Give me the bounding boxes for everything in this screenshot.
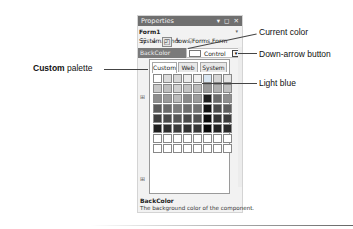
color-cell[interactable]: [213, 104, 222, 113]
color-cell[interactable]: [153, 144, 162, 153]
color-cell[interactable]: [213, 94, 222, 103]
window-controls[interactable]: ▾ ◻ ✕: [217, 16, 240, 26]
chevron-down-icon[interactable]: ▾: [235, 27, 238, 36]
color-cell[interactable]: [153, 94, 162, 103]
color-cell[interactable]: [163, 74, 172, 83]
expand-icon[interactable]: ⊞: [140, 93, 145, 100]
color-cell[interactable]: [183, 114, 192, 123]
color-cell[interactable]: [203, 124, 212, 133]
property-name: BackColor: [138, 48, 186, 58]
callout-custom-palette: Custom palette: [33, 63, 93, 73]
color-cell[interactable]: [213, 74, 222, 83]
properties-icon[interactable]: ◰: [162, 37, 172, 47]
current-color-swatch: [189, 50, 201, 57]
color-cell[interactable]: [223, 144, 232, 153]
color-cell[interactable]: [183, 134, 192, 143]
color-cell[interactable]: [153, 114, 162, 123]
color-cell[interactable]: [153, 134, 162, 143]
color-cell[interactable]: [173, 144, 182, 153]
color-cell[interactable]: [203, 84, 212, 93]
color-cell[interactable]: [153, 74, 162, 83]
color-cell[interactable]: [203, 144, 212, 153]
custom-color-grid: [153, 74, 232, 153]
color-cell[interactable]: [213, 134, 222, 143]
properties-window: Properties ▾ ◻ ✕ Form1 System.Windows.Fo…: [137, 15, 243, 213]
color-cell[interactable]: [173, 104, 182, 113]
description-title: BackColor: [140, 197, 174, 204]
color-cell[interactable]: [163, 84, 172, 93]
color-cell[interactable]: [163, 114, 172, 123]
color-cell[interactable]: [163, 124, 172, 133]
title-bar: Properties ▾ ◻ ✕: [138, 16, 242, 26]
expand-icon[interactable]: ⊞: [140, 175, 145, 182]
color-cell[interactable]: [193, 124, 202, 133]
color-picker-popup: Custom Web System: [149, 59, 230, 194]
object-name: Form1: [139, 28, 160, 35]
color-cell[interactable]: [213, 144, 222, 153]
description-text: The background color of the component.: [140, 205, 254, 211]
color-cell[interactable]: [173, 74, 182, 83]
color-cell[interactable]: [183, 84, 192, 93]
color-cell[interactable]: [193, 74, 202, 83]
color-cell[interactable]: [193, 134, 202, 143]
callout-custom-bold: Custom: [33, 63, 65, 73]
color-cell[interactable]: [173, 84, 182, 93]
color-cell[interactable]: [193, 114, 202, 123]
events-icon[interactable]: ϟ: [173, 37, 182, 46]
color-cell[interactable]: [203, 134, 212, 143]
color-cell[interactable]: [193, 104, 202, 113]
color-cell[interactable]: [173, 114, 182, 123]
alphabetical-icon[interactable]: ↓: [150, 37, 159, 46]
tab-system[interactable]: System: [200, 62, 227, 72]
color-cell[interactable]: [163, 104, 172, 113]
categorized-icon[interactable]: ☷: [139, 37, 148, 46]
color-cell[interactable]: [193, 84, 202, 93]
color-cell[interactable]: [223, 84, 232, 93]
color-cell[interactable]: [223, 94, 232, 103]
color-cell[interactable]: [153, 84, 162, 93]
color-cell[interactable]: [213, 114, 222, 123]
color-cell[interactable]: [223, 134, 232, 143]
color-cell[interactable]: [163, 144, 172, 153]
color-cell[interactable]: [183, 124, 192, 133]
tab-web[interactable]: Web: [178, 62, 198, 72]
color-cell[interactable]: [163, 134, 172, 143]
divider: [90, 225, 353, 226]
callout-custom-rest: palette: [65, 63, 93, 73]
color-cell[interactable]: [203, 94, 212, 103]
color-cell[interactable]: [183, 74, 192, 83]
color-cell[interactable]: [183, 104, 192, 113]
color-cell[interactable]: [223, 74, 232, 83]
color-cell[interactable]: [173, 94, 182, 103]
color-cell[interactable]: [183, 94, 192, 103]
color-cell[interactable]: [193, 144, 202, 153]
window-title: Properties: [141, 16, 174, 26]
color-cell[interactable]: [153, 104, 162, 113]
color-cell[interactable]: [173, 134, 182, 143]
color-cell[interactable]: [193, 94, 202, 103]
property-pages-icon[interactable]: ⚲: [186, 37, 195, 46]
leader-line: [238, 53, 257, 54]
color-cell[interactable]: [223, 124, 232, 133]
color-cell[interactable]: [183, 144, 192, 153]
color-cell[interactable]: [203, 114, 212, 123]
callout-light-blue: Light blue: [259, 78, 296, 88]
leader-line: [104, 69, 148, 70]
callout-current-color: Current color: [259, 27, 308, 37]
leader-line: [202, 83, 257, 84]
color-cell[interactable]: [163, 94, 172, 103]
scrollbar[interactable]: [238, 47, 242, 187]
color-cell[interactable]: [223, 104, 232, 113]
color-cell[interactable]: [153, 124, 162, 133]
object-selector[interactable]: Form1 System.Windows.Forms.Form ▾: [139, 27, 241, 36]
property-row-backcolor[interactable]: BackColor Control ▾: [138, 48, 242, 58]
color-cell[interactable]: [213, 84, 222, 93]
color-cell[interactable]: [173, 124, 182, 133]
callout-down-arrow: Down-arrow button: [259, 49, 331, 59]
color-cell-light-blue[interactable]: [203, 74, 212, 83]
color-cell[interactable]: [213, 124, 222, 133]
color-cell[interactable]: [203, 104, 212, 113]
tab-custom[interactable]: Custom: [152, 62, 177, 73]
property-value-field[interactable]: Control ▾: [186, 48, 242, 58]
color-cell[interactable]: [223, 114, 232, 123]
